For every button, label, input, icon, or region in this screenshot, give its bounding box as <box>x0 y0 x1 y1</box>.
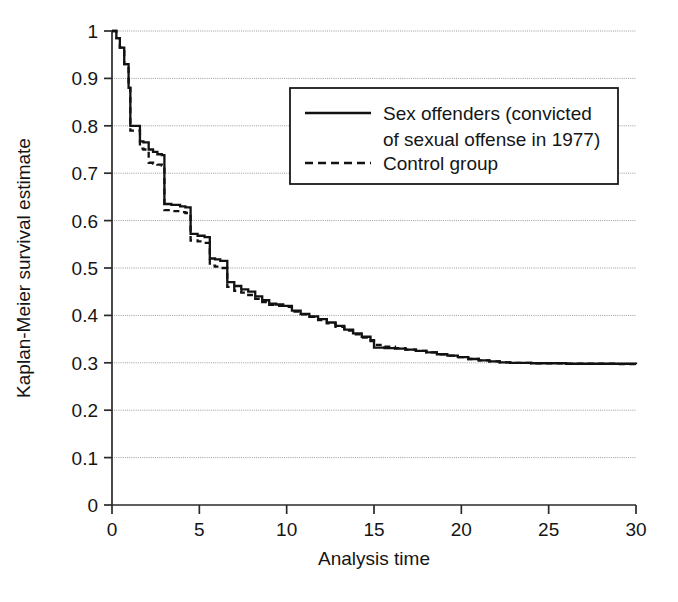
y-tick-label: 0.4 <box>72 305 99 326</box>
x-tick-label: 15 <box>363 519 384 540</box>
series-line-control-group <box>112 31 636 365</box>
y-tick-label: 0.7 <box>72 163 98 184</box>
y-tick-label: 0 <box>87 495 98 516</box>
y-tick-label: 0.1 <box>72 448 98 469</box>
legend: Sex offenders (convicted of sexual offen… <box>290 88 618 184</box>
x-tick-label: 0 <box>107 519 118 540</box>
x-axis-ticks-group: 051015202530 <box>107 505 647 540</box>
y-tick-label: 0.9 <box>72 68 98 89</box>
kaplan-meier-chart-figure: 00.10.20.30.40.50.60.70.80.91 0510152025… <box>0 0 678 602</box>
x-tick-label: 25 <box>538 519 559 540</box>
y-tick-label: 1 <box>87 21 98 42</box>
y-tick-label: 0.6 <box>72 211 98 232</box>
x-tick-label: 5 <box>194 519 205 540</box>
series-line-sex-offenders <box>112 31 636 364</box>
legend-label-sex-offenders-line1: Sex offenders (convicted <box>383 103 592 124</box>
chart-canvas: 00.10.20.30.40.50.60.70.80.91 0510152025… <box>0 0 678 602</box>
y-tick-label: 0.3 <box>72 353 98 374</box>
series-lines-group <box>112 31 636 365</box>
y-tick-label: 0.8 <box>72 116 98 137</box>
y-tick-label: 0.2 <box>72 400 98 421</box>
legend-label-control-group: Control group <box>383 153 498 174</box>
y-axis-title: Kaplan-Meier survival estimate <box>13 138 34 398</box>
y-tick-label: 0.5 <box>72 258 98 279</box>
x-tick-label: 30 <box>625 519 646 540</box>
x-tick-label: 10 <box>276 519 297 540</box>
y-axis-ticks-group: 00.10.20.30.40.50.60.70.80.91 <box>72 21 112 516</box>
x-axis-title: Analysis time <box>318 548 430 569</box>
x-tick-label: 20 <box>451 519 472 540</box>
legend-label-sex-offenders-line2: of sexual offense in 1977) <box>383 129 600 150</box>
